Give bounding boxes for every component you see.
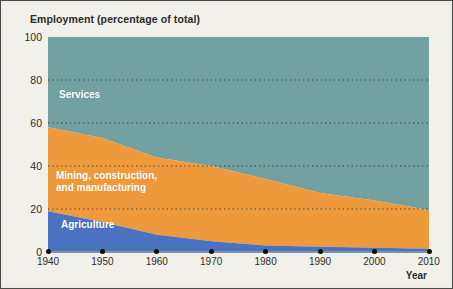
x-tick-1950: 1950 — [80, 256, 124, 267]
y-tick-60: 60 — [12, 117, 42, 129]
series-label-services: Services — [59, 89, 100, 101]
x-tick-1990: 1990 — [298, 256, 342, 267]
x-tick-1980: 1980 — [244, 256, 288, 267]
x-tick-2010: 2010 — [407, 256, 451, 267]
x-marker-2010 — [427, 249, 432, 254]
x-tick-1940: 1940 — [26, 256, 70, 267]
x-tick-2000: 2000 — [352, 256, 396, 267]
x-axis-label: Year — [406, 270, 427, 281]
page-title: Employment (percentage of total) — [30, 13, 200, 25]
x-marker-1960 — [154, 249, 159, 254]
x-marker-1940 — [46, 249, 51, 254]
x-marker-1950 — [100, 249, 105, 254]
series-label-agriculture: Agriculture — [61, 219, 114, 231]
y-tick-40: 40 — [12, 160, 42, 172]
x-marker-1970 — [209, 249, 214, 254]
chart-inner-panel: Employment (percentage of total) 100 80 … — [4, 4, 449, 285]
chart-frame: Employment (percentage of total) 100 80 … — [0, 0, 453, 289]
y-tick-20: 20 — [12, 203, 42, 215]
x-tick-1960: 1960 — [135, 256, 179, 267]
y-tick-100: 100 — [12, 31, 42, 43]
x-marker-2000 — [372, 249, 377, 254]
x-tick-1970: 1970 — [189, 256, 233, 267]
plot-area: Services Mining, construction, and manuf… — [48, 37, 429, 252]
x-marker-1990 — [318, 249, 323, 254]
y-tick-80: 80 — [12, 74, 42, 86]
series-label-mining: Mining, construction, and manufacturing — [56, 170, 157, 194]
x-marker-1980 — [263, 249, 268, 254]
